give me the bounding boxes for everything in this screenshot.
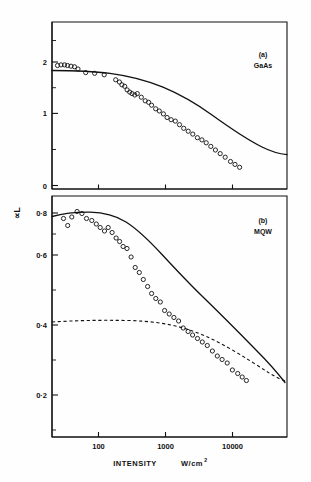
panel-b-ytick-0p6: 0·6 [36,251,47,260]
panel-b-group: 0·2 0·4 0·6 0·8 100 1000 10000 [36,196,287,451]
panel-b-sample-label: MQW [254,228,272,236]
x-axis-units-exponent: 2 [204,457,207,463]
panel-a-ytick-0: 0 [43,182,47,191]
y-axis-title-group: ∝L [12,207,22,218]
panel-b-reference-curve [52,320,287,381]
panel-b-ytick-0p4: 0·4 [36,321,48,330]
panel-b-ytick-0p8: 0·8 [36,209,47,218]
panel-a-y-ticks [52,41,58,186]
panel-a-fit-curve [52,71,287,155]
xtick-1000: 1000 [157,442,174,451]
panel-a-ytick-1: 1 [43,109,47,118]
x-axis-title: INTENSITY [113,459,157,468]
panel-a-tag: (a) [259,51,268,59]
panel-a-group: 0 1 2 [43,22,287,191]
xtick-10000: 10000 [222,442,243,451]
y-axis-title: ∝L [12,207,22,218]
panel-b-fit-curve [52,212,285,382]
panel-b-data-points [61,209,248,382]
x-axis-units: W/cm [181,459,203,468]
panel-b-ytick-0p2: 0·2 [36,391,47,400]
x-axis-title-group: INTENSITY W/cm 2 [113,457,208,468]
panel-a-y-tick-labels: 0 1 2 [43,58,47,191]
scientific-figure: 0 1 2 [0,0,311,482]
panel-b-x-ticks [99,432,233,437]
xtick-100: 100 [92,442,105,451]
panel-a-ytick-2: 2 [43,58,47,67]
panel-a-frame [52,22,287,189]
panel-a-sample-label: GaAs [254,62,272,69]
panel-b-tag: (b) [259,217,268,225]
panel-b-y-tick-labels: 0·2 0·4 0·6 0·8 [36,209,48,400]
figure-container: 0 1 2 [0,0,311,482]
panel-a-x-ticks [99,185,233,190]
panel-b-x-tick-labels: 100 1000 10000 [92,442,243,451]
